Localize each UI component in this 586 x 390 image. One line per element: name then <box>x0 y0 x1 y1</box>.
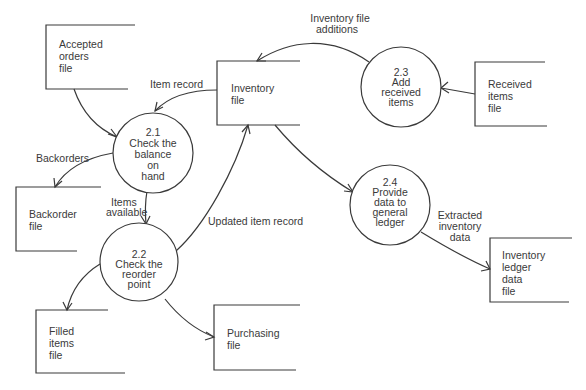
svg-text:file: file <box>49 349 63 361</box>
process-2-4: 2.4 Provide data to general ledger <box>350 165 430 245</box>
svg-text:items: items <box>388 96 413 108</box>
svg-text:point: point <box>128 278 151 290</box>
svg-text:data: data <box>502 273 523 285</box>
svg-text:Item record: Item record <box>150 78 203 90</box>
flow-inventory-file-additions: Inventory file additions <box>257 12 370 62</box>
svg-text:Purchasing: Purchasing <box>227 327 280 339</box>
store-accepted-orders: Accepted orders file <box>46 25 135 89</box>
flow-to-filled-items <box>63 264 100 310</box>
svg-text:Received: Received <box>488 78 532 90</box>
flow-item-record: Item record <box>150 78 217 111</box>
store-backorder: Backorder file <box>16 187 101 251</box>
svg-text:file: file <box>488 102 502 114</box>
svg-text:ledger: ledger <box>502 261 532 273</box>
data-flow-diagram: Accepted orders file Inventory file Rece… <box>0 0 586 390</box>
svg-text:Accepted: Accepted <box>59 38 103 50</box>
svg-text:items: items <box>49 337 74 349</box>
store-purchasing: Purchasing file <box>214 305 300 370</box>
svg-text:Filled: Filled <box>49 325 74 337</box>
svg-text:file: file <box>29 220 43 232</box>
flow-updated-item-record: Updated item record <box>176 125 303 251</box>
flow-accepted-to-2-1 <box>74 89 117 137</box>
svg-text:Inventory: Inventory <box>502 249 546 261</box>
process-2-3: 2.3 Add received items <box>361 47 441 127</box>
svg-text:Updated item record: Updated item record <box>208 215 303 227</box>
process-2-2: 2.2 Check the reorder point <box>100 223 178 301</box>
store-inventory-ledger: Inventory ledger data file <box>490 238 572 302</box>
flow-inventory-to-2-4 <box>275 125 353 192</box>
svg-text:Backorder: Backorder <box>29 208 77 220</box>
svg-text:hand: hand <box>141 170 165 182</box>
svg-text:Inventory: Inventory <box>231 82 275 94</box>
flow-extracted-inventory-data: Extracted inventory data <box>421 209 490 271</box>
flow-backorders: Backorders <box>36 152 113 187</box>
store-received-items: Received items file <box>475 62 547 126</box>
flow-received-items-to-2-3 <box>441 82 475 94</box>
svg-text:data: data <box>450 231 471 243</box>
svg-text:file: file <box>231 94 245 106</box>
svg-text:orders: orders <box>59 50 89 62</box>
flow-to-purchasing <box>165 299 214 340</box>
svg-text:ledger: ledger <box>375 216 405 228</box>
process-2-1: 2.1 Check the balance on hand <box>113 113 193 193</box>
store-inventory: Inventory file <box>217 61 300 125</box>
flow-items-available: Items available <box>106 191 150 224</box>
svg-text:file: file <box>502 285 516 297</box>
svg-text:additions: additions <box>316 23 358 35</box>
svg-text:file: file <box>227 339 241 351</box>
svg-text:available: available <box>106 206 148 218</box>
svg-text:file: file <box>59 62 73 74</box>
svg-text:items: items <box>488 90 513 102</box>
store-filled-items: Filled items file <box>36 310 125 373</box>
svg-text:Backorders: Backorders <box>36 152 89 164</box>
